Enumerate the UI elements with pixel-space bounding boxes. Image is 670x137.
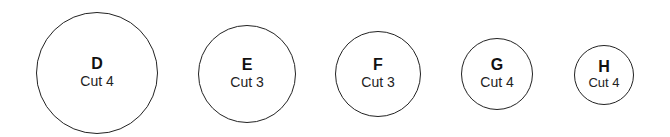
circle-cut-label: Cut 3 xyxy=(230,74,263,90)
circle-cut-label: Cut 4 xyxy=(80,73,113,89)
circle-letter: F xyxy=(373,57,383,73)
circle-f: F Cut 3 xyxy=(335,31,421,117)
circle-e: E Cut 3 xyxy=(198,25,296,123)
circle-cut-label: Cut 3 xyxy=(361,74,394,90)
circle-letter: E xyxy=(242,57,253,73)
circle-g: G Cut 4 xyxy=(461,38,533,110)
circle-letter: D xyxy=(91,56,103,72)
circle-d: D Cut 4 xyxy=(36,12,158,134)
circle-letter: G xyxy=(491,57,503,73)
circle-cut-label: Cut 4 xyxy=(588,76,619,91)
circle-letter: H xyxy=(598,59,610,75)
circle-h: H Cut 4 xyxy=(574,45,634,105)
circle-cut-label: Cut 4 xyxy=(480,74,513,90)
